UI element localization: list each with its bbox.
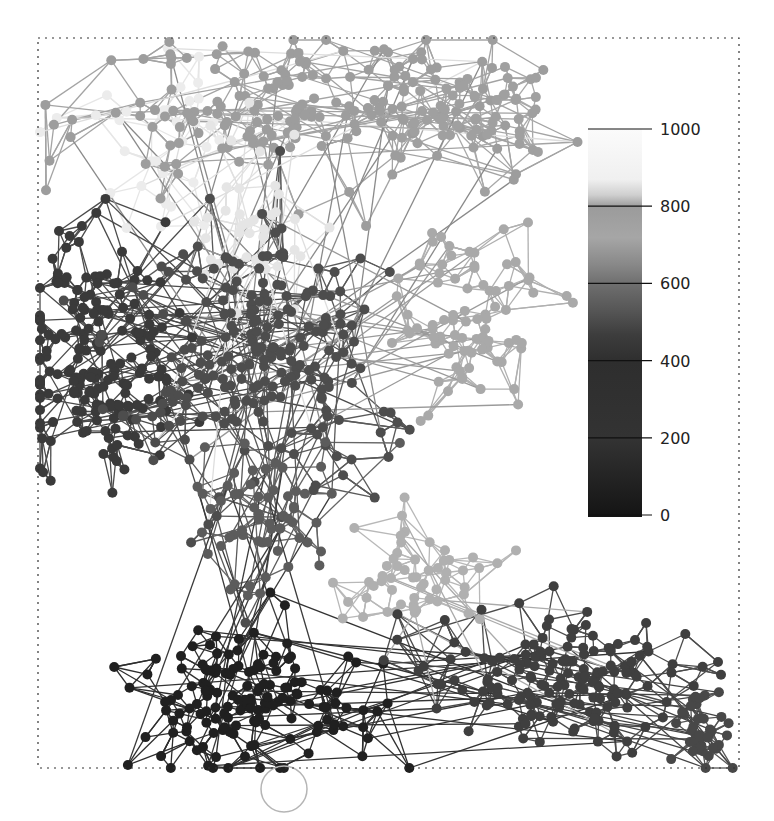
graph-node — [239, 69, 249, 79]
graph-node — [272, 77, 282, 87]
graph-node — [294, 48, 304, 58]
graph-node — [593, 737, 603, 747]
graph-node — [46, 436, 56, 446]
graph-node — [517, 338, 527, 348]
graph-node — [379, 655, 389, 665]
graph-node — [194, 128, 204, 138]
graph-node — [358, 705, 368, 715]
graph-node — [283, 562, 293, 572]
graph-node — [156, 194, 166, 204]
graph-node — [312, 518, 322, 528]
graph-node — [680, 629, 690, 639]
edge — [299, 192, 350, 214]
graph-node — [92, 415, 102, 425]
graph-node — [244, 667, 254, 677]
graph-node — [457, 333, 467, 343]
graph-node — [80, 292, 90, 302]
graph-node — [283, 514, 293, 524]
graph-node — [188, 116, 198, 126]
graph-node — [35, 393, 45, 403]
graph-node — [267, 130, 277, 140]
graph-node — [255, 763, 265, 773]
graph-node — [240, 751, 250, 761]
graph-node — [98, 404, 108, 414]
graph-node — [98, 449, 108, 459]
graph-node — [724, 718, 734, 728]
graph-node — [475, 101, 485, 111]
graph-node — [203, 213, 213, 223]
graph-node — [378, 571, 388, 581]
graph-node — [590, 713, 600, 723]
edge — [146, 710, 167, 737]
graph-node — [201, 686, 211, 696]
graph-node — [280, 683, 290, 693]
graph-node — [271, 228, 281, 238]
graph-node — [322, 686, 332, 696]
graph-node — [201, 233, 211, 243]
graph-node — [688, 746, 698, 756]
graph-node — [271, 666, 281, 676]
graph-node — [397, 133, 407, 143]
graph-node — [482, 701, 492, 711]
graph-node — [386, 573, 396, 583]
graph-node — [602, 702, 612, 712]
graph-node — [137, 363, 147, 373]
graph-node — [222, 182, 232, 192]
graph-node — [268, 382, 278, 392]
colorbar-tick-label: 600 — [660, 274, 691, 293]
graph-node — [255, 147, 265, 157]
graph-node — [48, 254, 58, 264]
edge — [325, 442, 400, 443]
graph-node — [511, 257, 521, 267]
graph-node — [117, 326, 127, 336]
graph-node — [254, 515, 264, 525]
graph-node — [274, 319, 284, 329]
graph-node — [643, 681, 653, 691]
graph-node — [453, 121, 463, 131]
graph-node — [275, 146, 285, 156]
graph-node — [218, 41, 228, 51]
graph-node — [330, 698, 340, 708]
graph-node — [161, 705, 171, 715]
graph-node — [98, 305, 108, 315]
edge — [519, 586, 554, 603]
graph-node — [160, 111, 170, 121]
graph-node — [533, 147, 543, 157]
graph-node — [450, 274, 460, 284]
graph-node — [477, 345, 487, 355]
graph-node — [35, 375, 45, 385]
graph-node — [318, 422, 328, 432]
graph-node — [295, 57, 305, 67]
graph-node — [492, 144, 502, 154]
graph-node — [317, 392, 327, 402]
graph-node — [243, 590, 253, 600]
graph-node — [514, 598, 524, 608]
graph-node — [358, 612, 368, 622]
graph-node — [316, 547, 326, 557]
graph-node — [449, 638, 459, 648]
graph-node — [300, 110, 310, 120]
graph-node — [262, 114, 272, 124]
graph-node — [581, 620, 591, 630]
graph-node — [448, 90, 458, 100]
graph-node — [475, 614, 485, 624]
graph-node — [265, 588, 275, 598]
graph-node — [130, 299, 140, 309]
graph-node — [237, 221, 247, 231]
graph-node — [254, 264, 264, 274]
graph-node — [430, 75, 440, 85]
graph-node — [245, 228, 255, 238]
graph-node — [698, 662, 708, 672]
graph-node — [229, 729, 239, 739]
graph-node — [699, 714, 709, 724]
graph-node — [526, 671, 536, 681]
graph-node — [139, 290, 149, 300]
graph-node — [112, 440, 122, 450]
graph-node — [304, 699, 314, 709]
graph-node — [45, 366, 55, 376]
graph-node — [245, 704, 255, 714]
graph-node — [338, 613, 348, 623]
graph-node — [255, 296, 265, 306]
graph-node — [432, 151, 442, 161]
graph-node — [666, 668, 676, 678]
